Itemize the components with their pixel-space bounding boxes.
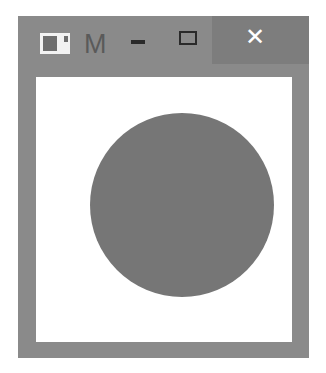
- window-title: M: [84, 29, 107, 59]
- close-button[interactable]: ✕: [212, 16, 309, 64]
- client-area: [36, 77, 292, 342]
- maximize-icon: [179, 31, 197, 45]
- minimize-icon: [131, 40, 145, 44]
- circle-shape: [90, 113, 274, 297]
- minimize-button[interactable]: [118, 16, 168, 64]
- app-icon-notch: [64, 36, 68, 42]
- window-app-icon[interactable]: [40, 33, 70, 54]
- title-bar[interactable]: M ✕: [18, 16, 309, 76]
- app-window: M ✕: [18, 16, 309, 358]
- app-icon-fill: [43, 36, 57, 51]
- close-icon: ✕: [245, 22, 265, 52]
